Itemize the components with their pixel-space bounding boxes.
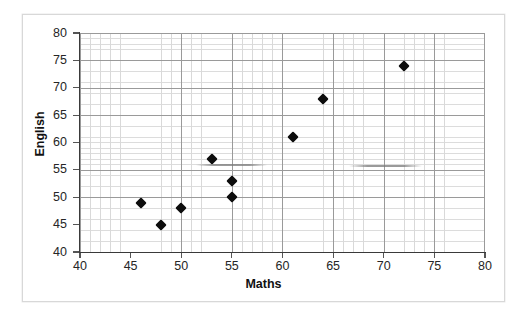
y-tick-mark bbox=[73, 60, 79, 61]
y-axis-title: English bbox=[33, 111, 47, 156]
x-tick-label: 65 bbox=[318, 260, 348, 273]
y-tick-mark bbox=[73, 224, 79, 225]
x-tick-label: 80 bbox=[470, 260, 500, 273]
x-tick-label: 70 bbox=[369, 260, 399, 273]
x-tick-mark bbox=[383, 253, 384, 258]
y-tick-mark bbox=[73, 32, 79, 33]
plot-right-border bbox=[484, 33, 485, 252]
x-tick-mark bbox=[79, 253, 80, 258]
plot-top-border bbox=[80, 33, 485, 34]
y-tick-label: 40 bbox=[41, 246, 67, 259]
x-tick-label: 40 bbox=[65, 260, 95, 273]
x-tick-label: 50 bbox=[166, 260, 196, 273]
plot-area bbox=[80, 33, 485, 252]
x-tick-label: 45 bbox=[116, 260, 146, 273]
y-tick-mark bbox=[73, 142, 79, 143]
y-tick-label: 70 bbox=[41, 81, 67, 94]
x-tick-label: 75 bbox=[419, 260, 449, 273]
x-tick-mark bbox=[484, 253, 485, 258]
x-tick-mark bbox=[282, 253, 283, 258]
x-axis-title: Maths bbox=[23, 277, 504, 291]
chart-frame: 404550556065707580 404550556065707580 En… bbox=[22, 14, 505, 302]
x-tick-mark bbox=[333, 253, 334, 258]
y-tick-mark bbox=[73, 169, 79, 170]
x-tick-label: 60 bbox=[268, 260, 298, 273]
y-tick-label: 75 bbox=[41, 54, 67, 67]
x-tick-mark bbox=[181, 253, 182, 258]
y-tick-label: 50 bbox=[41, 191, 67, 204]
x-tick-mark bbox=[231, 253, 232, 258]
y-tick-mark bbox=[73, 197, 79, 198]
y-tick-mark bbox=[73, 87, 79, 88]
y-tick-label: 55 bbox=[41, 163, 67, 176]
x-tick-mark bbox=[434, 253, 435, 258]
x-tick-mark bbox=[130, 253, 131, 258]
y-tick-mark bbox=[73, 251, 79, 252]
y-tick-label: 80 bbox=[41, 27, 67, 40]
y-tick-label: 45 bbox=[41, 218, 67, 231]
y-tick-mark bbox=[73, 115, 79, 116]
major-gridlines bbox=[80, 33, 485, 252]
y-axis-line bbox=[79, 32, 80, 253]
x-tick-label: 55 bbox=[217, 260, 247, 273]
